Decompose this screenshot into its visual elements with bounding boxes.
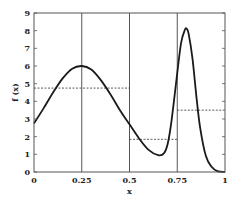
- y-tick-label: 5: [24, 79, 30, 89]
- vertical-gridlines: [82, 13, 178, 172]
- x-axis-label: x: [127, 186, 132, 196]
- x-tick-label: 1: [222, 175, 228, 185]
- x-tick-label: 0: [31, 175, 37, 185]
- y-axis-label: f (x): [10, 83, 20, 102]
- y-tick-label: 8: [24, 26, 30, 36]
- x-axis-ticks: 00.250.50.751: [31, 175, 228, 185]
- y-tick-label: 7: [24, 43, 30, 53]
- y-axis-ticks: 0123456789: [24, 8, 225, 177]
- x-tick-label: 0.5: [123, 175, 137, 185]
- y-tick-label: 4: [24, 96, 30, 106]
- y-tick-label: 1: [24, 149, 30, 159]
- y-tick-label: 6: [24, 61, 30, 71]
- y-tick-label: 0: [24, 167, 30, 177]
- y-tick-label: 3: [24, 114, 30, 124]
- chart: 0123456789 00.250.50.751 x f (x): [0, 0, 238, 201]
- y-tick-label: 2: [24, 132, 30, 142]
- x-tick-label: 0.75: [168, 175, 187, 185]
- x-tick-label: 0.25: [72, 175, 91, 185]
- y-tick-label: 9: [24, 8, 30, 18]
